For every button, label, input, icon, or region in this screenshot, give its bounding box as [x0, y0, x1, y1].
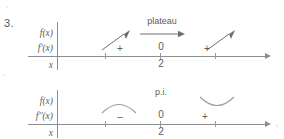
row-label-variable: x — [49, 60, 53, 70]
interval-sign: – — [117, 112, 123, 122]
axis-tick — [215, 53, 216, 59]
interval-sign: + — [202, 112, 208, 122]
sign-chart-first-derivative: f(x) f'(x) x plateau — [0, 14, 284, 72]
concave-up-arc-icon — [198, 96, 238, 112]
row-label-derivative: f'(x) — [38, 43, 53, 53]
vertical-divider — [57, 90, 58, 138]
row-label-variable: x — [49, 128, 53, 138]
increasing-arrow-icon — [100, 30, 132, 52]
number-line-arrow-icon — [265, 121, 271, 127]
number-line — [28, 56, 268, 57]
plateau-horizontal-arrow-icon — [140, 29, 186, 39]
interval-sign: + — [204, 44, 210, 54]
page-speckle — [3, 74, 5, 76]
number-line — [28, 124, 268, 125]
axis-tick — [215, 121, 216, 127]
annotation-point-of-inflection: p.i. — [155, 87, 167, 97]
vertical-divider — [57, 22, 58, 70]
critical-point-value: 0 — [158, 42, 164, 52]
interval-sign: + — [117, 44, 123, 54]
critical-point-x-value: 2 — [158, 127, 164, 137]
sign-chart-worksheet: 3. f(x) f'(x) x plateau — [0, 0, 284, 139]
axis-tick — [105, 53, 106, 59]
number-line-arrow-icon — [265, 53, 271, 59]
critical-point-x-value: 2 — [158, 59, 164, 69]
row-label-second-derivative: f''(x) — [36, 111, 53, 121]
sign-chart-second-derivative: f(x) f''(x) x p.i. – 0 + 2 — [0, 82, 284, 139]
page-speckle — [6, 6, 8, 8]
row-label-function: f(x) — [40, 28, 53, 38]
axis-tick — [105, 121, 106, 127]
annotation-plateau: plateau — [147, 16, 177, 26]
critical-point-value: 0 — [158, 110, 164, 120]
row-label-function: f(x) — [40, 96, 53, 106]
